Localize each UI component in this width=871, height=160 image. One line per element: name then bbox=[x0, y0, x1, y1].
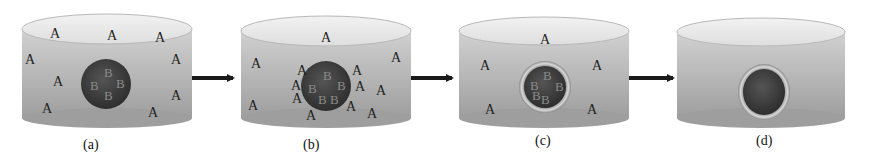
caption-d: (d) bbox=[756, 133, 773, 149]
solute-molecule: A bbox=[376, 83, 387, 98]
solute-molecule: A bbox=[352, 63, 363, 78]
particle-label: B bbox=[555, 79, 564, 94]
process-diagram: B B B B A A A A A A A A A (a) bbox=[0, 0, 871, 160]
solute-molecule: A bbox=[25, 52, 36, 67]
solute-molecule: A bbox=[592, 58, 603, 73]
solute-molecule: A bbox=[251, 56, 262, 71]
solute-molecule: A bbox=[391, 50, 402, 65]
particle-b: B B B B B bbox=[301, 61, 351, 111]
particle-label: B bbox=[104, 88, 113, 103]
caption-a: (a) bbox=[83, 137, 99, 153]
solute-molecule: A bbox=[480, 58, 491, 73]
solute-molecule: A bbox=[171, 88, 182, 103]
panel-d: (d) bbox=[677, 18, 845, 149]
panel-b: B B B B B A A A A A A A A A A A A A ( bbox=[241, 16, 411, 153]
particle-label: B bbox=[543, 68, 552, 83]
particle-label: B bbox=[541, 92, 550, 107]
solute-molecule: A bbox=[587, 102, 598, 117]
caption-c: (c) bbox=[535, 133, 551, 149]
solute-molecule: A bbox=[321, 30, 332, 45]
caption-b: (b) bbox=[303, 137, 320, 153]
solute-molecule: A bbox=[367, 106, 378, 121]
solute-molecule: A bbox=[346, 99, 357, 114]
solute-molecule: A bbox=[485, 102, 496, 117]
particle-label: B bbox=[337, 78, 346, 93]
solute-molecule: A bbox=[292, 91, 303, 106]
particle-a: B B B B bbox=[81, 59, 131, 109]
solute-molecule: A bbox=[355, 79, 366, 94]
solute-molecule: A bbox=[248, 98, 259, 113]
particle-d bbox=[738, 64, 790, 120]
panel-a: B B B B A A A A A A A A A (a) bbox=[22, 14, 192, 153]
particle-label: B bbox=[318, 92, 327, 107]
diagram-canvas: B B B B A A A A A A A A A (a) bbox=[0, 0, 871, 160]
solute-molecule: A bbox=[148, 105, 159, 120]
particle-c: B B B B B bbox=[519, 61, 571, 113]
particle-label: B bbox=[323, 68, 332, 83]
particle-label: B bbox=[532, 88, 541, 103]
solute-molecule: A bbox=[540, 32, 551, 47]
solute-molecule: A bbox=[155, 30, 166, 45]
solute-molecule: A bbox=[42, 101, 53, 116]
panel-c: B B B B B A A A A A (c) bbox=[459, 17, 629, 149]
solute-molecule: A bbox=[297, 63, 308, 78]
solute-molecule: A bbox=[171, 52, 182, 67]
particle-label: B bbox=[308, 81, 317, 96]
solute-molecule: A bbox=[306, 108, 317, 123]
particle-label: B bbox=[330, 92, 339, 107]
particle-label: B bbox=[90, 78, 99, 93]
solute-molecule: A bbox=[107, 28, 118, 43]
solute-molecule: A bbox=[53, 74, 64, 89]
solute-molecule: A bbox=[50, 26, 61, 41]
particle-label: B bbox=[104, 65, 113, 80]
particle-label: B bbox=[116, 76, 125, 91]
